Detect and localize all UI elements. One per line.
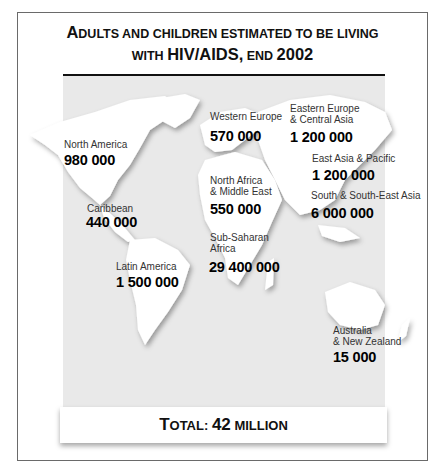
region-value-australia-new-zealand: 15 000 [333,349,376,365]
region-label-eastern-europe-central-asia: Eastern Europe & Central Asia [290,103,360,125]
region-value-south-southeast-asia: 6 000 000 [311,205,374,221]
se-asia-islands-shape [318,225,360,242]
region-label-north-africa-middle-east: North Africa & Middle East [210,175,272,197]
region-value-sub-saharan-africa: 29 400 000 [209,259,280,275]
total-unit: MILLION [231,418,288,433]
region-value-western-europe: 570 000 [210,128,261,144]
region-label-caribbean: Caribbean [87,203,133,214]
region-label-north-america: North America [64,139,127,150]
region-label-sub-saharan-africa: Sub-Saharan Africa [210,232,269,254]
region-value-caribbean: 440 000 [86,214,137,230]
total-banner: TOTAL: 42 MILLION [60,407,387,443]
south-america-shape [126,238,190,345]
region-value-north-africa-middle-east: 550 000 [210,201,261,217]
region-value-eastern-europe-central-asia: 1 200 000 [290,129,353,145]
region-label-australia-new-zealand: Australia & New Zealand [333,325,401,347]
australia-shape [325,282,385,330]
total-number: 42 [212,415,231,434]
total-label: OTAL: [170,418,212,433]
region-value-latin-america: 1 500 000 [116,274,179,290]
region-label-latin-america: Latin America [116,261,177,272]
region-label-east-asia-pacific: East Asia & Pacific [312,153,395,164]
region-label-western-europe: Western Europe [210,111,282,122]
region-label-south-southeast-asia: South & South-East Asia [311,190,421,201]
north-america-shape [30,96,175,205]
region-value-north-america: 980 000 [64,152,115,168]
total-initial: T [159,415,169,434]
region-value-east-asia-pacific: 1 200 000 [312,167,375,183]
